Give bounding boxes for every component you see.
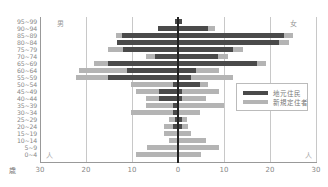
bar-female-newcomer — [178, 110, 200, 115]
legend-item-newcomer: 新規定住者 — [243, 98, 308, 106]
bar-female-newcomer — [178, 138, 206, 143]
bar-female-newcomer — [178, 96, 206, 101]
bar-female-newcomer — [178, 152, 201, 157]
bar-female-local — [178, 33, 284, 38]
age-label: 90~94 — [0, 25, 37, 32]
age-label: 60~64 — [0, 67, 37, 74]
age-unit-label: 歳 — [9, 165, 16, 175]
bar-male-newcomer — [131, 82, 178, 87]
chart-legend: 地元住民 新規定住者 — [236, 83, 308, 111]
age-label: 15~19 — [0, 130, 37, 137]
age-label: 20~24 — [0, 123, 37, 130]
age-label: 40~44 — [0, 95, 37, 102]
bar-male-local — [108, 61, 178, 66]
bar-female-local — [178, 40, 279, 45]
age-label: 75~79 — [0, 46, 37, 53]
bar-male-local — [159, 96, 178, 101]
bar-female-local — [178, 47, 233, 52]
legend-swatch-dark — [243, 91, 268, 95]
bar-male-newcomer — [136, 152, 178, 157]
x-tick-label: 20 — [82, 166, 91, 174]
bar-female-local — [178, 54, 218, 59]
bar-female-local — [178, 61, 257, 66]
age-label: 25~29 — [0, 116, 37, 123]
bar-female-local — [178, 68, 196, 73]
gridline-right-30 — [316, 17, 317, 162]
people-unit-left: 人 — [46, 150, 53, 160]
bar-male-local — [108, 75, 178, 80]
bar-female-newcomer — [178, 131, 191, 136]
bar-female-local — [178, 82, 200, 87]
x-tick-label: 10 — [220, 166, 229, 174]
legend-label-newcomer: 新規定住者 — [273, 97, 308, 107]
age-label: 55~59 — [0, 74, 37, 81]
bar-male-newcomer — [164, 131, 178, 136]
age-label: 85~89 — [0, 32, 37, 39]
male-label: 男 — [57, 18, 64, 28]
age-label: 95~99 — [0, 18, 37, 25]
bar-male-local — [159, 89, 178, 94]
age-label: 0~4 — [0, 151, 37, 158]
bar-female-newcomer — [178, 145, 219, 150]
center-axis-line — [177, 17, 179, 163]
gridline-left-20 — [86, 17, 87, 162]
gridline-left-10 — [132, 17, 133, 162]
legend-swatch-light — [243, 100, 268, 104]
age-label: 5~9 — [0, 144, 37, 151]
age-label: 80~84 — [0, 39, 37, 46]
people-unit-right: 人 — [305, 150, 312, 160]
bar-male-local — [127, 68, 178, 73]
bar-male-local — [123, 47, 178, 52]
age-label: 50~54 — [0, 81, 37, 88]
bar-female-newcomer — [178, 89, 219, 94]
female-label: 女 — [290, 18, 297, 28]
x-tick-label: 0 — [176, 166, 180, 174]
age-label: 45~49 — [0, 88, 37, 95]
age-label: 65~69 — [0, 60, 37, 67]
age-label: 10~14 — [0, 137, 37, 144]
x-tick-label: 30 — [312, 166, 321, 174]
x-tick-label: 20 — [266, 166, 275, 174]
bar-male-local — [155, 54, 178, 59]
x-tick-label: 10 — [128, 166, 137, 174]
y-axis-line — [40, 17, 41, 163]
bar-male-local — [117, 40, 178, 45]
age-label: 70~74 — [0, 53, 37, 60]
legend-item-local: 地元住民 — [243, 89, 301, 97]
bar-male-newcomer — [147, 145, 178, 150]
x-tick-label: 30 — [36, 166, 45, 174]
age-label: 35~39 — [0, 102, 37, 109]
bar-female-newcomer — [178, 103, 224, 108]
bar-female-local — [178, 26, 208, 31]
bar-male-local — [158, 26, 178, 31]
bar-female-local — [178, 75, 191, 80]
age-label: 30~34 — [0, 109, 37, 116]
bar-male-local — [122, 33, 178, 38]
gridline-right-10 — [224, 17, 225, 162]
bar-male-newcomer — [131, 110, 178, 115]
